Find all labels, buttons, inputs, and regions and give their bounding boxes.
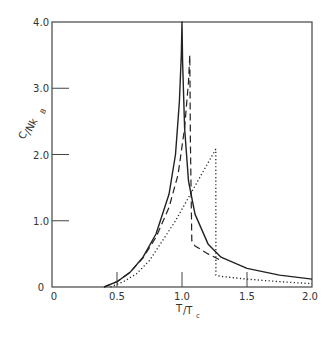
x-tick-label: 1.0	[174, 291, 190, 302]
series-solid-line	[104, 22, 312, 287]
y-axis-ticks: 01.02.03.04.0	[33, 17, 69, 293]
y-axis-label: C /Nk B	[16, 103, 48, 144]
y-axis-label-sep: /Nk	[22, 116, 40, 136]
y-tick-label: 4.0	[33, 17, 49, 28]
series-dotted-line	[111, 149, 313, 287]
x-axis-label-T: T	[175, 303, 183, 314]
specific-heat-chart: 01.02.03.04.0 00.51.01.52.0 T /T c C /Nk…	[0, 0, 333, 338]
y-tick-label: 1.0	[33, 216, 49, 227]
data-series	[104, 22, 312, 287]
y-tick-label: 2.0	[33, 150, 49, 161]
y-tick-label: 3.0	[33, 83, 49, 94]
x-tick-label: 0	[51, 291, 57, 302]
x-tick-label: 2.0	[302, 291, 318, 302]
x-tick-label: 1.5	[239, 291, 255, 302]
y-tick-label: 0	[38, 282, 44, 293]
x-tick-label: 0.5	[109, 291, 125, 302]
y-axis-label-sub: B	[39, 107, 48, 115]
x-axis-label-sep: /T	[183, 305, 193, 316]
x-axis-label-sub: c	[196, 312, 200, 320]
x-axis-label: T /T c	[175, 303, 200, 320]
